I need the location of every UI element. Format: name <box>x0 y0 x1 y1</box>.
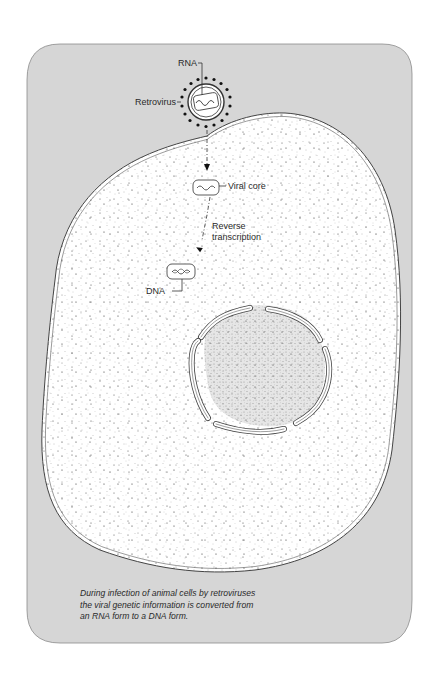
label-rna: RNA <box>178 58 197 68</box>
label-reverse: Reverse <box>212 221 246 231</box>
label-dna: DNA <box>146 286 165 296</box>
retrovirus-infection-diagram: RNA Retrovirus Viral core Reverse transc… <box>0 0 438 681</box>
label-viral-core: Viral core <box>228 181 266 191</box>
figure-caption: During infection of animal cells by retr… <box>80 588 380 623</box>
caption-line-1: During infection of animal cells by retr… <box>80 588 380 600</box>
caption-line-2: the viral genetic information is convert… <box>80 600 380 612</box>
caption-line-3: an RNA form to a DNA form. <box>80 611 380 623</box>
label-transcription: transcription <box>212 232 261 242</box>
label-retrovirus: Retrovirus <box>135 97 177 107</box>
